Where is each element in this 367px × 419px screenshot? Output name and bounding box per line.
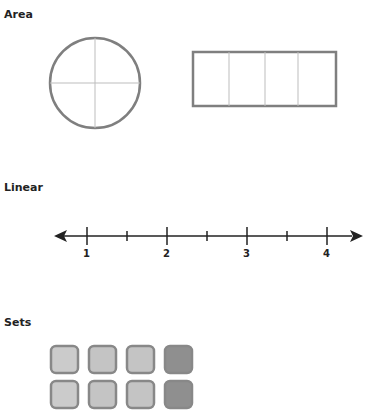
diagram-canvas — [0, 0, 367, 419]
tick-label-3: 3 — [243, 248, 250, 259]
tick-label-2: 2 — [163, 248, 170, 259]
number-line — [54, 227, 363, 245]
set-squares — [51, 346, 192, 408]
tick-label-4: 4 — [323, 248, 330, 259]
quartered-rectangle — [193, 52, 336, 106]
tick-label-1: 1 — [83, 248, 90, 259]
quartered-circle — [50, 38, 140, 128]
